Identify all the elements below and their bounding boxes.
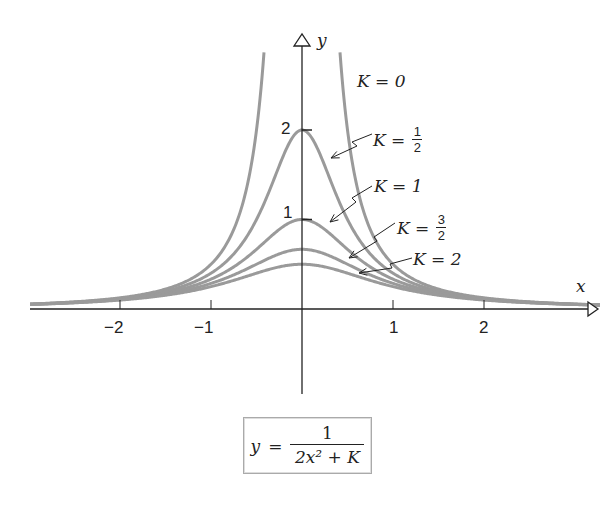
- curve-k-0_5: [30, 130, 600, 305]
- x-axis-label: x: [576, 276, 586, 296]
- x-tick-label-2: 2: [479, 318, 488, 338]
- y-tick-label-1: 1: [283, 203, 292, 223]
- legend-k0-text: K = 0: [357, 71, 406, 91]
- curve-k-0: [30, 52, 600, 304]
- legend-k1-text: K = 1: [374, 176, 423, 196]
- formula-equals: =: [268, 436, 282, 456]
- leader-line: [349, 223, 395, 258]
- legend-k-three-halves-text: K =: [397, 218, 429, 238]
- curve-k-1_5: [30, 249, 600, 305]
- legend-k-half: K = 12: [373, 125, 422, 154]
- legend-k-half-text: K =: [373, 130, 405, 150]
- x-tick-label-neg1: −1: [194, 318, 213, 338]
- curve-k-2: [30, 264, 600, 305]
- legend-k1: K = 1: [374, 176, 423, 196]
- y-axis-arrow-icon: [294, 34, 310, 46]
- formula-denominator: 2x² + K: [295, 447, 360, 467]
- y-axis-label: y: [317, 30, 327, 50]
- y-tick-label-2: 2: [281, 119, 290, 139]
- legend-k2-text: K = 2: [413, 249, 462, 269]
- legend-k-half-fraction: 12: [412, 125, 422, 154]
- formula-fraction: 1 2x² + K: [290, 424, 364, 467]
- formula-lhs: y: [251, 436, 261, 456]
- legend-k-three-halves: K = 32: [397, 213, 446, 242]
- legend-k2: K = 2: [413, 249, 462, 269]
- curve-k-1: [30, 220, 600, 306]
- legend-k0: K = 0: [357, 71, 406, 91]
- formula-box: y = 1 2x² + K: [243, 417, 372, 474]
- legend-k-three-halves-fraction: 32: [436, 213, 446, 242]
- x-tick-label-1: 1: [389, 318, 398, 338]
- formula-numerator: 1: [322, 424, 333, 442]
- x-tick-label-neg2: −2: [104, 318, 123, 338]
